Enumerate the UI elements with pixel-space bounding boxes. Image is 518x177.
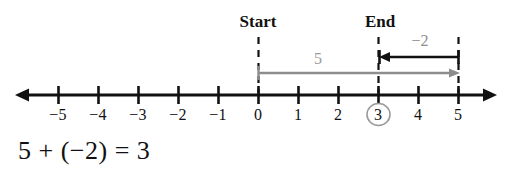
tick-label-3: 3 <box>374 107 382 123</box>
tick-label-4: 4 <box>414 107 422 123</box>
end-marker-label: End <box>365 13 395 30</box>
second-addend-arrow <box>379 50 459 64</box>
tick-label-1: 1 <box>294 107 302 123</box>
tick-label-0: 0 <box>254 107 262 123</box>
tick-label--4: −4 <box>89 107 106 123</box>
first-addend-label: 5 <box>314 51 322 67</box>
tick-label--5: −5 <box>49 107 66 123</box>
equation-text: 5 + (−2) = 3 <box>18 136 150 166</box>
tick-label-5: 5 <box>454 107 462 123</box>
tick-label--1: −1 <box>209 107 226 123</box>
tick-label--2: −2 <box>169 107 186 123</box>
number-line-figure: Start End −2 5 −5 −4 −3 −2 −1 0 1 2 3 4 … <box>0 0 518 177</box>
first-addend-arrow <box>258 66 460 80</box>
tick-label--3: −3 <box>129 107 146 123</box>
start-marker-label: Start <box>240 13 277 30</box>
tick-label-2: 2 <box>334 107 342 123</box>
number-line-axis <box>15 89 497 102</box>
second-addend-label: −2 <box>411 33 428 49</box>
